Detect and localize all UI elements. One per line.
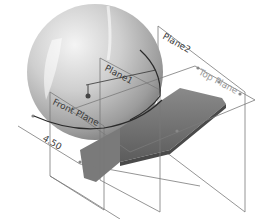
cad-viewport[interactable]: Plane2 Top Plane Plane1 Front Plane <box>0 0 256 219</box>
dimension-label: 4.50 <box>41 133 64 152</box>
plane2-label: Plane2 <box>161 31 192 55</box>
dimension[interactable]: 4.50 <box>41 133 64 152</box>
top-plane-label: Top Plane <box>196 66 240 96</box>
